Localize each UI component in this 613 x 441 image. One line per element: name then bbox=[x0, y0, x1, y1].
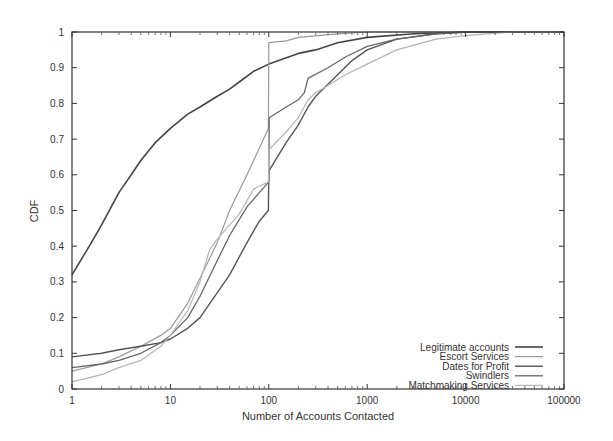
y-tick-label: 0.3 bbox=[50, 276, 64, 287]
y-tick-label: 0.5 bbox=[50, 205, 64, 216]
series-line-escort-services bbox=[72, 32, 564, 371]
series-lines bbox=[72, 32, 564, 382]
series-line-dates-for-profit bbox=[72, 32, 564, 357]
legend-label: Matchmaking Services bbox=[408, 380, 509, 391]
y-tick-label: 0.8 bbox=[50, 98, 64, 109]
x-tick-label: 10000 bbox=[452, 395, 480, 406]
x-axis-label: Number of Accounts Contacted bbox=[242, 410, 394, 422]
y-tick-label: 0.9 bbox=[50, 62, 64, 73]
cdf-chart: 110100100010000100000 00.10.20.30.40.50.… bbox=[0, 0, 613, 441]
series-line-legitimate-accounts bbox=[72, 32, 564, 275]
y-tick-label: 0.7 bbox=[50, 134, 64, 145]
plot-frame bbox=[72, 32, 564, 389]
x-tick-label: 10 bbox=[165, 395, 177, 406]
x-tick-label: 1 bbox=[69, 395, 75, 406]
legend: Legitimate accountsEscort ServicesDates … bbox=[408, 342, 543, 391]
series-line-matchmaking-services bbox=[72, 32, 564, 382]
y-tick-label: 0.6 bbox=[50, 169, 64, 180]
y-tick-label: 0.1 bbox=[50, 348, 64, 359]
x-tick-label: 100000 bbox=[547, 395, 581, 406]
x-tick-label: 100 bbox=[260, 395, 277, 406]
y-tick-label: 0.2 bbox=[50, 312, 64, 323]
x-tick-label: 1000 bbox=[356, 395, 379, 406]
y-tick-label: 1 bbox=[58, 27, 64, 38]
y-tick-label: 0 bbox=[58, 384, 64, 395]
y-axis-label: CDF bbox=[28, 199, 40, 222]
series-line-swindlers bbox=[72, 32, 564, 368]
chart-canvas: 110100100010000100000 00.10.20.30.40.50.… bbox=[0, 0, 613, 441]
y-tick-label: 0.4 bbox=[50, 241, 64, 252]
